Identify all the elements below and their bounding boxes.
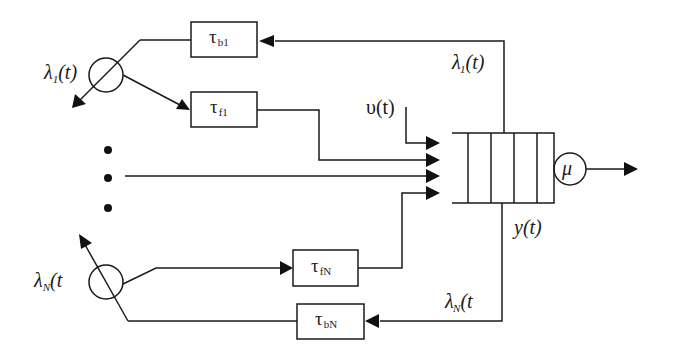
source-N-label: λN(t [34,270,62,293]
arrow-into-tau-fN-icon [280,261,293,275]
arrow-f1-into-queue-icon [426,153,440,167]
tau-fN-label: τfN [311,256,331,277]
ellipsis-dot-2 [104,174,112,182]
source-1-diagonal-line [78,40,140,102]
queue-buffer [452,133,554,203]
line-tau-f1-to-queue [257,110,428,160]
source-1-label: λ1(t) [44,62,77,85]
arrow-fN-into-queue-icon [426,186,440,200]
line-upsilon-to-queue [406,107,428,143]
queue-output-label: y(t) [514,217,542,237]
arrow-into-tau-b1-icon [259,35,274,47]
feedback-1-label: λ'1(t) [452,52,484,75]
feedback-line-N [380,203,502,321]
server-output-arrow-icon [624,162,638,176]
ellipsis-dot-3 [104,204,112,212]
line-source1-to-tau-f1 [123,75,180,105]
arrow-into-tau-bN-icon [365,314,379,328]
tau-b1-label: τb1 [209,27,229,48]
ellipsis-dot-1 [104,146,112,154]
arrow-middle-into-queue-icon [426,169,440,183]
external-input-label: υ(t) [366,97,395,117]
line-sourceN-to-tau-fN [123,268,281,284]
line-tau-fN-to-queue [358,193,428,268]
tau-bN-label: τbN [315,309,337,330]
arrow-upsilon-into-queue-icon [426,136,440,150]
server-label: μ [562,158,572,178]
tau-f1-label: τf1 [210,97,228,118]
queue-feedback-diagram [0,0,676,355]
feedback-N-label: λ'N(t [445,291,473,314]
source-N-diagonal-line [84,243,128,321]
